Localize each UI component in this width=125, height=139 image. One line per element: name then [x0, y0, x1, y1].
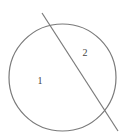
circle-outline	[9, 24, 116, 131]
region-2-label: 2	[83, 47, 88, 58]
region-1-label: 1	[38, 75, 43, 86]
dividing-line	[42, 13, 118, 131]
circle-diagram: 1 2	[0, 0, 125, 139]
